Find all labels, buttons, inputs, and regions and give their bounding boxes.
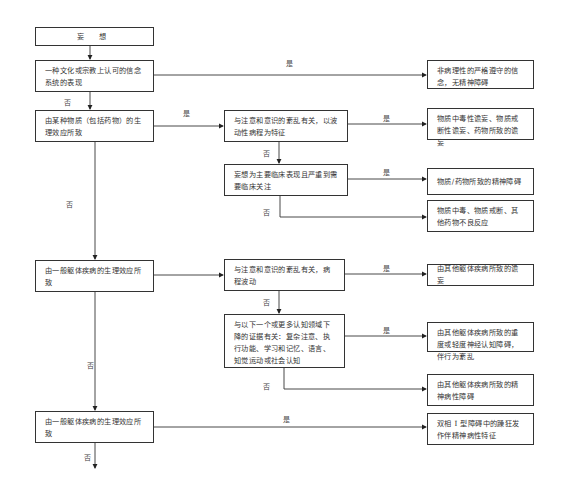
edge-label-yes: 是 xyxy=(283,414,290,424)
node-medical-delirium-question: 与注意和意识的紊乱有关，病程波动 xyxy=(224,259,345,291)
edge-label-no: 否 xyxy=(64,97,71,107)
edge-label-yes: 是 xyxy=(383,263,390,273)
outcome-substance-other: 物质中毒、物质戒断、其他药物不良反应 xyxy=(427,200,534,232)
outcome-nonpathological-belief: 非病理性的严格遵守的信念，无精神障碍 xyxy=(427,60,534,89)
node-medical-cognitive-question: 与以下一个或更多认知领域下降的证据有关：复杂注意、执行功能、学习和记忆、语言、知… xyxy=(224,314,345,368)
edge-label-no: 否 xyxy=(263,381,270,391)
node-medical-question-2: 由一般躯体疾病的生理效应所致 xyxy=(35,411,154,443)
edge-label-yes: 是 xyxy=(383,113,390,123)
node-culture-question: 一种文化或宗教上认可的信念系统的表现 xyxy=(35,60,154,92)
node-start-delusion: 妄 想 xyxy=(35,27,154,46)
node-substance-attention-question: 妄想为主要临床表现且严重到需要临床关注 xyxy=(224,164,348,196)
outcome-medical-ncd: 由其他躯体疾病所致的重度或轻度神经认知障碍，伴行为紊乱 xyxy=(427,322,534,352)
outcome-bipolar-psychotic: 双相 Ⅰ 型障碍中的躁狂发作伴精神病性特征 xyxy=(427,413,534,445)
edge-label-no: 否 xyxy=(66,199,73,209)
outcome-medical-psychotic: 由其他躯体疾病所致的精神病性障碍 xyxy=(427,374,534,406)
edge-label-yes: 是 xyxy=(383,325,390,335)
edge-label-no: 否 xyxy=(87,360,94,370)
edge-label-no: 否 xyxy=(263,148,270,158)
node-medical-question: 由一般躯体疾病的生理效应所致 xyxy=(35,260,154,292)
edge-label-no: 否 xyxy=(263,207,270,217)
outcome-substance-psychotic: 物质/药物所致的精神障碍 xyxy=(427,168,534,195)
edge-label-yes: 是 xyxy=(286,58,293,68)
outcome-substance-delirium: 物质中毒性谵妄、物质戒断性谵妄、药物所致的谵妄 xyxy=(427,108,534,140)
outcome-medical-delirium: 由其他躯体疾病所致的谵妄 xyxy=(427,264,534,286)
node-substance-delirium-question: 与注意和意识的紊乱有关，以波动性病程为特征 xyxy=(224,110,348,142)
edge-label-no: 否 xyxy=(84,452,91,462)
node-substance-question: 由某种物质（包括药物）的生理效应所致 xyxy=(35,110,154,142)
edge-label-yes: 是 xyxy=(183,108,190,118)
edge-label-yes: 是 xyxy=(383,167,390,177)
edge-label-no: 否 xyxy=(263,297,270,307)
